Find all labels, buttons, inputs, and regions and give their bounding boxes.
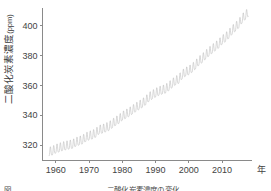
x-axis-unit-label: 年 [257, 164, 266, 175]
chart-plot-area: 320340360380400196019701980199020002010年 [0, 0, 271, 191]
x-tick-label-1960: 1960 [46, 165, 66, 175]
co2-data-line [49, 10, 248, 156]
y-tick-label-400: 400 [22, 21, 37, 31]
y-tick-label-360: 360 [22, 81, 37, 91]
y-tick-label-320: 320 [22, 140, 37, 150]
x-tick-label-1980: 1980 [112, 165, 132, 175]
y-axis-title-main: 二酸化炭素濃度 [3, 34, 14, 104]
figure-caption: 図 二酸化炭素濃度の変化 [4, 184, 270, 191]
y-axis-title-unit: (ppm) [5, 14, 14, 34]
x-tick-label-2000: 2000 [179, 165, 199, 175]
x-tick-label-1990: 1990 [146, 165, 166, 175]
y-axis-title: 二酸化炭素濃度(ppm) [1, 7, 15, 111]
y-tick-label-340: 340 [22, 110, 37, 120]
y-tick-label-380: 380 [22, 51, 37, 61]
figure-caption-text: 図 二酸化炭素濃度の変化 [4, 186, 179, 191]
axis-spines [43, 8, 253, 160]
x-tick-label-1970: 1970 [79, 165, 99, 175]
x-tick-label-2010: 2010 [212, 165, 232, 175]
co2-concentration-figure: 320340360380400196019701980199020002010年… [0, 0, 271, 191]
